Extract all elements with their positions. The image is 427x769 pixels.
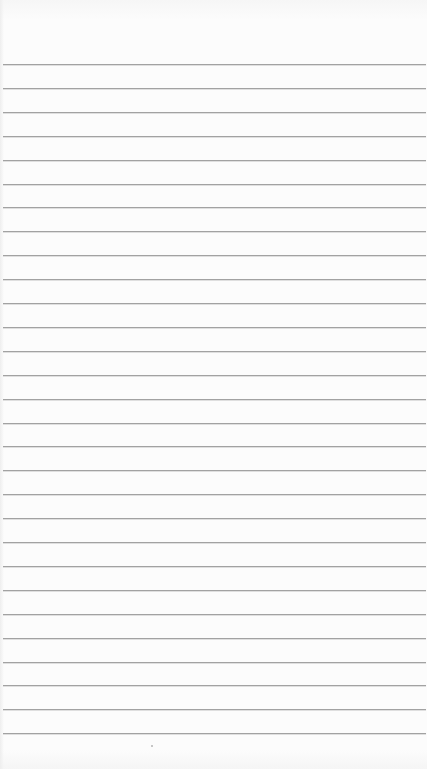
ruled-line (3, 566, 426, 567)
ruled-line (3, 279, 426, 280)
ruled-line (3, 88, 426, 89)
ruled-line (3, 64, 426, 65)
ruled-line (3, 160, 426, 161)
ruled-line (3, 662, 426, 663)
ruled-line (3, 518, 426, 519)
ruled-line (3, 590, 426, 591)
ruled-line (3, 112, 426, 113)
ruled-line (3, 351, 426, 352)
ruled-line (3, 303, 426, 304)
ruled-line (3, 207, 426, 208)
page-edge-shadow (0, 0, 4, 769)
ruled-line (3, 184, 426, 185)
ruled-line (3, 542, 426, 543)
ruled-line (3, 136, 426, 137)
ruled-line (3, 327, 426, 328)
ruled-line (3, 685, 426, 686)
ruled-line (3, 423, 426, 424)
ruled-line (3, 231, 426, 232)
paper-speck (151, 745, 153, 747)
ruled-line (3, 733, 426, 734)
ruled-line (3, 375, 426, 376)
ruled-line (3, 709, 426, 710)
ruled-line (3, 470, 426, 471)
ruled-line (3, 494, 426, 495)
ruled-line (3, 638, 426, 639)
ruled-line (3, 446, 426, 447)
ruled-line (3, 399, 426, 400)
ruled-line (3, 255, 426, 256)
ruled-line (3, 614, 426, 615)
lined-paper-page (0, 0, 427, 769)
